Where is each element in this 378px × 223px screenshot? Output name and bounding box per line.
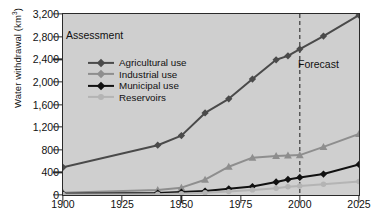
legend-item-label: Municipal use [119,80,179,91]
data-point-marker [355,161,359,168]
series-canvas [63,14,359,195]
legend-item[interactable]: Reservoirs [88,92,187,104]
y-axis-tick-mark [53,194,62,195]
y-axis-tick-label: 1,200 [0,121,59,133]
legend-swatch-diamond-icon [88,57,114,68]
data-point-marker [272,178,279,185]
legend-swatch-triangle-icon [88,69,114,80]
y-axis-tick-label: 0 [0,189,59,201]
data-point-marker [321,182,326,187]
legend-item[interactable]: Municipal use [88,80,187,92]
y-axis-tick-label: 3,200 [0,8,59,20]
legend-marker [97,70,105,78]
legend-item[interactable]: Agricultural use [88,57,187,69]
y-axis-tick-label: 400 [0,166,59,178]
y-axis-tick-mark [53,81,62,82]
data-point-marker [273,186,278,191]
y-axis-tick-mark [53,36,62,37]
y-axis-tick-mark [53,126,62,127]
x-axis-tick-mark [62,196,63,203]
y-axis-tick-label: 2,000 [0,76,59,88]
legend-swatch-diamond-icon [88,80,114,91]
legend-marker [97,82,105,90]
series-line [63,164,359,193]
data-point-marker [320,170,327,177]
legend-marker [98,94,104,100]
x-axis-tick-mark [240,196,241,203]
legend-item[interactable]: Industrial use [88,69,187,81]
data-point-marker [285,184,290,189]
x-axis-tick-mark [122,196,123,203]
data-point-marker [63,164,67,171]
water-withdrawal-line-chart: Water withdrawal (km3) 04008001,2001,600… [0,0,378,223]
data-point-marker [226,189,231,194]
chart-legend: Agricultural useIndustrial useMunicipal … [88,57,187,103]
data-point-marker [296,174,303,181]
data-point-marker [154,142,161,149]
legend-item-label: Industrial use [119,69,177,80]
assessment-annotation: Assessment [66,29,123,41]
y-axis-tick-label: 800 [0,144,59,156]
y-axis-tick-mark [53,149,62,150]
y-axis-tick-label: 2,400 [0,53,59,65]
y-axis-tick-label: 2,800 [0,31,59,43]
y-axis-tick-mark [53,59,62,60]
y-axis-tick-label: 1,600 [0,99,59,111]
x-axis-tick-mark [181,196,182,203]
x-axis-tick-mark [299,196,300,203]
forecast-annotation: Forecast [298,58,339,70]
legend-marker [97,59,105,67]
plot-inner [63,14,359,195]
y-axis-tick-mark [53,172,62,173]
y-axis-tick-mark [53,13,62,14]
legend-item-label: Agricultural use [119,57,187,68]
legend-item-label: Reservoirs [119,92,166,103]
data-point-marker [356,179,359,184]
legend-swatch-circle-icon [88,92,114,103]
x-axis-tick-mark [358,196,359,203]
data-point-marker [297,183,302,188]
data-point-marker [284,176,291,183]
series-municipal-use [63,161,359,195]
data-point-marker [250,187,255,192]
y-axis-tick-mark [53,104,62,105]
